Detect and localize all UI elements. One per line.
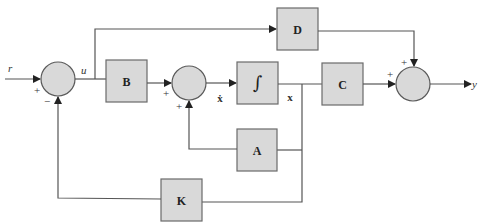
summing-junction-3 — [396, 67, 430, 101]
input-signal-label: r — [8, 62, 13, 74]
integral-icon: ∫ — [253, 72, 263, 93]
summing-junction-2 — [172, 66, 206, 100]
state-label: x — [287, 91, 293, 103]
block-k-label: K — [177, 194, 187, 208]
block-b-label: B — [122, 75, 130, 89]
block-diagram: r + − u B + + ẋ ∫ x A K C + D + — [0, 0, 479, 224]
sum1-minus-sign: − — [44, 95, 50, 107]
sum1-plus-sign: + — [34, 84, 40, 96]
sum2-plus-sign-bottom: + — [176, 100, 182, 112]
k-to-sum1-line — [58, 97, 161, 199]
block-c-label: C — [338, 78, 347, 92]
sum3-plus-sign-left: + — [387, 68, 393, 80]
output-signal-label: y — [471, 78, 477, 90]
sum3-plus-sign-top: + — [401, 56, 407, 68]
sum2-plus-sign-left: + — [163, 87, 169, 99]
block-d-label: D — [293, 23, 302, 37]
block-a-label: A — [253, 144, 262, 158]
d-to-sum3-line — [318, 31, 414, 66]
state-derivative-label: ẋ — [217, 92, 223, 104]
control-signal-label: u — [81, 64, 87, 76]
a-to-sum2-line — [189, 101, 237, 149]
summing-junction-1 — [41, 62, 75, 96]
